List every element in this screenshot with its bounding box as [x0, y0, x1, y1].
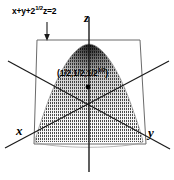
interior-point-label: (1/2,1/2,1/21/2) [57, 69, 108, 78]
plane-equation-lhs-a: x+y+2 [12, 6, 35, 16]
z-axis-label: z [84, 11, 89, 24]
solid-region [30, 40, 150, 150]
plane-equation-label: x+y+21/2z=2 [12, 7, 56, 16]
y-axis-label: y [148, 126, 154, 139]
x-axis-label: x [16, 124, 23, 137]
math-figure: x+y+21/2z=2 (1/2,1/2,1/21/2) z x y [0, 0, 174, 180]
interior-point-prefix: (1/2,1/2,1/2 [57, 68, 98, 78]
plane-leader-arrow [44, 22, 50, 41]
plane-equation-lhs-b: z=2 [43, 6, 56, 16]
interior-point-marker [86, 85, 91, 90]
figure-canvas [0, 0, 174, 180]
plane-equation-exponent: 1/2 [35, 5, 43, 11]
interior-point-suffix: ) [105, 68, 108, 78]
